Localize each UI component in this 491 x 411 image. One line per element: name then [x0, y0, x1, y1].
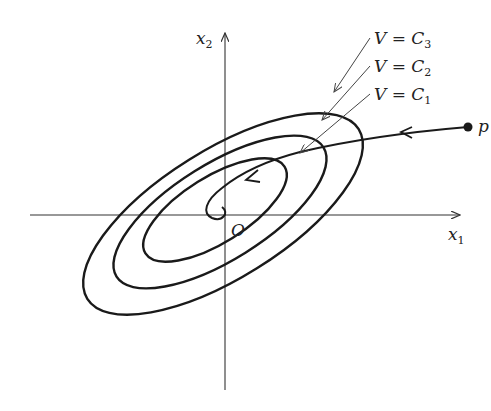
level-curve-c3 [53, 75, 392, 353]
label-v-c1: V = C1 [374, 86, 431, 106]
x1-axis-label: x1 [448, 226, 465, 246]
label-v-c3: V = C3 [374, 30, 431, 50]
origin-label: O [231, 222, 245, 239]
point-p [464, 123, 473, 132]
x2-axis-label: x2 [196, 30, 213, 50]
point-p-label: p [478, 118, 489, 135]
label-v-c2: V = C2 [374, 58, 431, 78]
lyapunov-level-set-diagram: x2 x1 O V = C3 V = C2 V = C1 p [0, 0, 491, 411]
trajectory [206, 127, 468, 219]
level-curve-c2 [91, 107, 349, 318]
leader-c3 [334, 38, 370, 92]
